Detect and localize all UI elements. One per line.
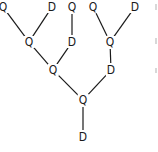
cropped-edge-mark [155, 38, 157, 44]
edge-q6-q7 [58, 75, 78, 95]
node-d5: D [78, 131, 88, 143]
node-d3: D [67, 36, 77, 48]
edge-q1-q4 [7, 13, 25, 37]
edge-d2-q5 [114, 13, 131, 37]
node-q4: Q [24, 36, 35, 48]
edge-d3-q6 [57, 48, 68, 64]
edge-d4-q7 [88, 75, 106, 95]
edge-d1-q4 [33, 13, 48, 36]
cropped-edge-mark [155, 4, 157, 10]
edge-q4-q6 [34, 47, 49, 64]
node-d1: D [47, 1, 57, 13]
edge-q3-q5 [96, 13, 107, 35]
node-q6: Q [48, 64, 59, 76]
node-q2: Q [67, 1, 78, 13]
cropped-edge-mark [155, 68, 157, 73]
node-q5: Q [105, 36, 116, 48]
node-q1: Q [0, 1, 8, 13]
node-d4: D [106, 64, 116, 76]
node-q3: Q [88, 1, 99, 13]
edge-q5-d4 [110, 49, 111, 63]
node-q7-root: Q [78, 94, 89, 106]
tree-diagram: Q D Q Q D Q D Q Q D Q D [0, 0, 158, 152]
node-d2: D [130, 1, 140, 13]
